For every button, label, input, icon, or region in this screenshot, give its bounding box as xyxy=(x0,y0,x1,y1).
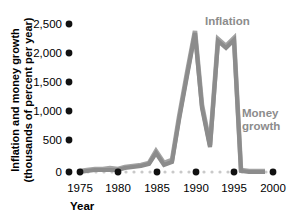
x-tick-label-1975: 1975 xyxy=(67,182,93,194)
baseline-dot xyxy=(202,170,205,173)
y-tick-label-2000: 2,000 xyxy=(33,47,62,59)
x-axis-ticks: 1975 1980 1985 1990 1995 2000 xyxy=(67,182,286,194)
x-tick-label-1990: 1990 xyxy=(183,182,209,194)
y-tick-dot-500 xyxy=(66,137,73,144)
y-tick-label-1500: 1,500 xyxy=(33,76,62,88)
y-tick-label-2500: 2,500 xyxy=(33,18,62,30)
x-tick-dot-1985 xyxy=(154,169,161,176)
y-tick-label-0: 0 xyxy=(56,166,62,178)
chart-svg: Inflation and money growth (thousands of… xyxy=(0,0,301,221)
series-annotation-inflation: Inflation xyxy=(205,15,250,27)
y-tick-dot-2500 xyxy=(66,21,73,28)
x-tick-dot-1980 xyxy=(115,169,122,176)
baseline-dot xyxy=(210,170,213,173)
series-annotation-money-growth-line2: growth xyxy=(242,120,280,132)
y-axis-title: Inflation and money growth (thousands of… xyxy=(9,17,34,182)
baseline-dot xyxy=(124,170,127,173)
x-tick-dot-1995 xyxy=(231,169,238,176)
y-tick-dot-0 xyxy=(66,169,73,176)
chart-container: Inflation and money growth (thousands of… xyxy=(0,0,301,221)
y-tick-label-1000: 1,000 xyxy=(33,105,62,117)
y-axis-title-line1: Inflation and money growth xyxy=(9,28,21,172)
x-tick-label-1985: 1985 xyxy=(144,182,170,194)
x-tick-dot-2000 xyxy=(270,169,277,176)
x-tick-label-1995: 1995 xyxy=(221,182,247,194)
y-tick-dot-2000 xyxy=(66,50,73,57)
y-tick-dot-1500 xyxy=(66,79,73,86)
x-axis-title: Year xyxy=(70,200,95,212)
y-axis-ticks: 2,500 2,000 1,500 1,000 500 0 xyxy=(33,18,62,178)
baseline-dot xyxy=(140,170,143,173)
y-tick-label-500: 500 xyxy=(43,134,62,146)
x-tick-dot-1975 xyxy=(77,169,84,176)
x-tick-label-2000: 2000 xyxy=(260,182,286,194)
baseline-dot xyxy=(132,170,135,173)
baseline-dot xyxy=(187,170,190,173)
y-axis-title-line2: (thousands of percent per year) xyxy=(22,17,34,182)
baseline-dot xyxy=(163,170,166,173)
series-annotation-money-growth-line1: Money xyxy=(242,107,279,119)
x-tick-dot-1990 xyxy=(193,169,200,176)
y-tick-dot-1000 xyxy=(66,108,73,115)
baseline-dot xyxy=(226,170,229,173)
baseline-dot xyxy=(179,170,182,173)
baseline-dot xyxy=(148,170,151,173)
y-tick-dots xyxy=(66,21,73,176)
x-tick-label-1980: 1980 xyxy=(105,182,131,194)
series-line-inflation xyxy=(80,33,265,172)
baseline-dot xyxy=(218,170,221,173)
baseline-dot xyxy=(171,170,174,173)
